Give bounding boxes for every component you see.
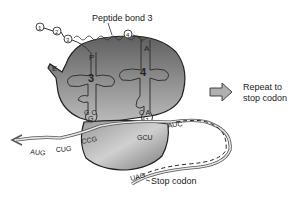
ribosome-diagram: E P A 3 4 G C G C A G AUG CUG CCG GCU AU…: [0, 0, 302, 199]
codon-cug: CUG: [56, 145, 72, 153]
e-site-label: E: [52, 64, 57, 73]
peptide-bond-label: Peptide bond 3: [92, 13, 153, 23]
trna-4-number: 4: [140, 66, 147, 78]
repeat-label-line2: stop codon: [243, 93, 287, 103]
stop-codon-label: Stop codon: [151, 176, 197, 186]
p-site-label: P: [89, 53, 94, 62]
anticodon-p-mid: G: [88, 115, 93, 122]
a-site-label: A: [144, 44, 150, 53]
trna-3-number: 3: [88, 72, 94, 84]
repeat-arrow-icon: [210, 83, 232, 101]
codon-aug: AUG: [30, 148, 46, 157]
repeat-label-line1: Repeat to: [243, 82, 282, 92]
codon-gcu: GCU: [137, 134, 153, 141]
codon-auc: AUC: [167, 120, 183, 129]
